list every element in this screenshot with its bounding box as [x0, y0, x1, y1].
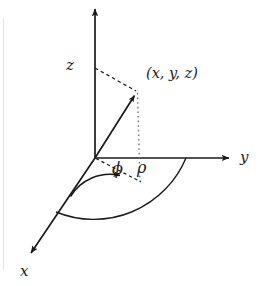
y-axis-label: y — [240, 150, 248, 165]
z-axis-label: z — [66, 58, 74, 73]
point-label: (x, y, z) — [146, 66, 198, 81]
rho-radius-label: ρ — [137, 160, 146, 176]
radius-vector — [95, 96, 135, 159]
x-axis-label: x — [20, 264, 28, 279]
phi-angle-label: ϕ — [112, 161, 123, 177]
axes-drawing — [0, 0, 259, 286]
coordinate-axes-figure: z y x (x, y, z) ϕ ρ — [0, 0, 259, 286]
x-axis-line — [31, 158, 95, 253]
z-height-guide-line — [95, 68, 136, 91]
